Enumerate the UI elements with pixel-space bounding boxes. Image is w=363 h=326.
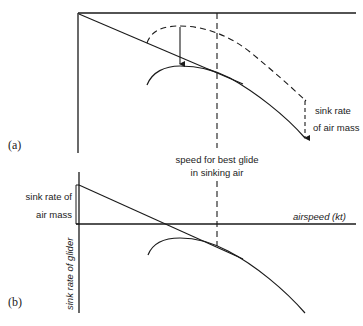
panel-b-y-axis-label: sink rate of glider [64, 237, 75, 310]
best-glide-label-line2: in sinking air [191, 167, 244, 178]
panel-b-sink-label-line2: air mass [36, 209, 72, 220]
panel-a-label: (a) [8, 138, 21, 152]
panel-b-label: (b) [8, 295, 22, 309]
panel-b-glider-polar [148, 238, 305, 313]
panel-a-sink-label-line2: of air mass [313, 122, 360, 133]
panel-a: sink rate of air mass (a) speed for best… [8, 13, 360, 178]
panel-a-dashed-end [305, 100, 306, 101]
panel-a-tangent-line [79, 14, 243, 84]
panel-b-tangent-line [79, 185, 243, 259]
panel-a-shifted-polar-dashed [147, 26, 305, 100]
best-glide-label-line1: speed for best glide [176, 154, 259, 165]
panel-a-sink-label-line1: sink rate [315, 105, 351, 116]
panel-b-sink-label-line1: sink rate of [26, 191, 73, 202]
panel-b: sink rate of air mass airspeed (kt) sink… [8, 172, 356, 313]
panel-b-x-axis-label: airspeed (kt) [293, 211, 346, 222]
speed-to-fly-diagram: sink rate of air mass (a) speed for best… [0, 0, 363, 326]
